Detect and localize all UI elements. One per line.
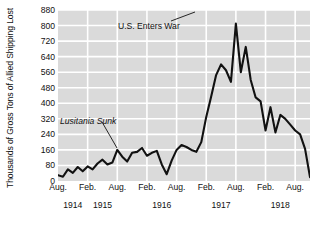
annotation-lusitania-sunk: Lusitania Sunk xyxy=(60,117,116,126)
x-year-label: 1914 xyxy=(63,201,82,210)
x-tick-label: Feb. xyxy=(138,183,155,192)
x-axis-tick-labels: Aug.Feb.Aug.Feb.Aug.Feb.Aug.Feb.Aug. xyxy=(58,183,310,197)
x-year-label: 1916 xyxy=(152,201,171,210)
x-tick-label: Aug. xyxy=(49,183,67,192)
us-enters-war-leader xyxy=(171,12,195,21)
y-axis-tick-labels: 080160240320400480560640720800880 xyxy=(20,0,58,196)
x-axis-year-labels: 19141915191619171918 xyxy=(58,201,310,215)
annotation-us-enters-war: U.S. Enters War xyxy=(118,22,180,31)
plot-svg xyxy=(58,10,310,181)
y-tick-label: 320 xyxy=(41,115,55,124)
vertical-gridlines xyxy=(88,10,296,181)
x-tick-label: Aug. xyxy=(227,183,245,192)
y-tick-label: 800 xyxy=(41,21,55,30)
x-year-label: 1917 xyxy=(211,201,230,210)
shipping-loss-line xyxy=(58,24,310,178)
y-tick-label: 880 xyxy=(41,6,55,15)
y-tick-label: 480 xyxy=(41,83,55,92)
annotation-leader-lines xyxy=(102,12,195,148)
y-tick-label: 160 xyxy=(41,146,55,155)
x-tick-label: Feb. xyxy=(257,183,274,192)
y-axis-title-label: Thousands of Gross Tons of Allied Shippi… xyxy=(5,8,15,188)
x-tick-label: Feb. xyxy=(79,183,96,192)
y-tick-label: 240 xyxy=(41,130,55,139)
y-axis-title: Thousands of Gross Tons of Allied Shippi… xyxy=(0,0,20,196)
y-tick-label: 80 xyxy=(45,161,55,170)
horizontal-gridlines xyxy=(58,10,310,165)
y-tick-label: 720 xyxy=(41,37,55,46)
x-year-label: 1918 xyxy=(271,201,290,210)
shipping-losses-chart: Thousands of Gross Tons of Allied Shippi… xyxy=(0,0,316,228)
x-year-label: 1915 xyxy=(93,201,112,210)
x-tick-label: Aug. xyxy=(168,183,186,192)
y-tick-label: 640 xyxy=(41,52,55,61)
y-tick-label: 560 xyxy=(41,68,55,77)
y-tick-label: 400 xyxy=(41,99,55,108)
plot-area xyxy=(58,10,310,181)
x-tick-label: Aug. xyxy=(108,183,126,192)
x-tick-label: Feb. xyxy=(198,183,215,192)
x-tick-label: Aug. xyxy=(286,183,304,192)
